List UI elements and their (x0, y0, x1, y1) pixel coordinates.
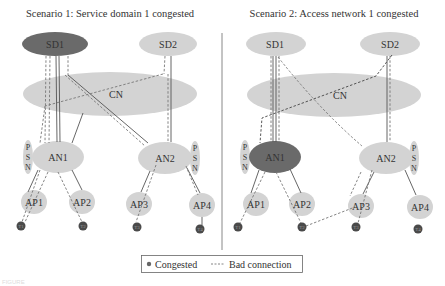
sd2-label: SD2 (381, 39, 399, 50)
network-diagram: Scenario 1: Service domain 1 congested (0, 0, 445, 286)
ap3-label: AP3 (352, 201, 370, 212)
psn2-s: S (412, 154, 416, 163)
psn2-n: N (192, 164, 198, 173)
legend: Congested Bad connection (142, 256, 303, 273)
sd1-label: SD1 (46, 39, 64, 50)
link-cn-an1 (72, 113, 83, 143)
cn-label: CN (109, 89, 123, 100)
t3-label: T3 (353, 225, 359, 230)
figure-caption: FIGURE (2, 279, 25, 285)
link-an1-ap1 (28, 170, 38, 192)
bad-sd1-an1 (45, 56, 46, 143)
cn-label: CN (333, 90, 347, 101)
psn2-p: P (412, 144, 417, 153)
psn1-s: S (26, 153, 30, 162)
scenario-2-title: Scenario 2: Access network 1 congested (250, 8, 420, 19)
an2-label: AN2 (155, 153, 174, 164)
psn1-n: N (242, 163, 248, 172)
psn2-n: N (411, 164, 417, 173)
an2-label: AN2 (376, 153, 395, 164)
an1-label: AN1 (265, 152, 284, 163)
link-sd1-an1 (56, 56, 57, 142)
ap4-label: AP4 (193, 200, 211, 211)
link-an1-ap1 (251, 170, 259, 193)
t2-label: T2 (80, 224, 86, 229)
t3-label: T3 (134, 225, 140, 230)
ap2-label: AP2 (293, 199, 311, 210)
t1-label: T1 (235, 225, 241, 230)
sd2-label: SD2 (159, 39, 177, 50)
t4-label: T4 (197, 227, 203, 232)
psn1-s: S (243, 153, 247, 162)
t4-label: T4 (415, 227, 421, 232)
bad-cn-an1 (40, 106, 45, 143)
t1-label: T1 (18, 224, 24, 229)
link-sd1-an1-b (59, 56, 60, 142)
ap1-label: AP1 (247, 199, 265, 210)
bad-sd1-an1-b (49, 56, 50, 143)
an1-label: AN1 (48, 152, 67, 163)
ap1-label: AP1 (25, 197, 43, 208)
scenario-2: Scenario 2: Access network 1 congested (234, 8, 434, 234)
psn2-s: S (193, 154, 197, 163)
psn2-p: P (193, 144, 198, 153)
congested-legend-icon (147, 262, 151, 266)
psn1-p: P (26, 143, 31, 152)
ap4-label: AP4 (411, 202, 429, 213)
ap2-label: AP2 (73, 197, 91, 208)
link-an1-ap2 (72, 170, 82, 190)
sd1-label: SD1 (266, 39, 284, 50)
t2-label: T2 (299, 225, 305, 230)
link-an2-ap3 (141, 171, 150, 192)
bad-sd2-cn (164, 56, 165, 74)
scenario-1: Scenario 1: Service domain 1 congested (17, 8, 216, 234)
ap3-label: AP3 (130, 199, 148, 210)
psn1-p: P (243, 143, 248, 152)
bad-connection-legend-label: Bad connection (229, 259, 291, 270)
scenario-1-title: Scenario 1: Service domain 1 congested (26, 8, 195, 19)
bad-an2-ap3 (350, 172, 361, 196)
link-an1-ap2 (290, 169, 301, 193)
congested-legend-label: Congested (155, 259, 197, 270)
psn1-n: N (25, 163, 31, 172)
